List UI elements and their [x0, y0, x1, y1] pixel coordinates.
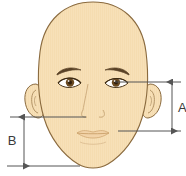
head-outline — [38, 2, 147, 168]
face-diagram-svg: A B — [0, 0, 186, 176]
face-proportion-diagram: A B — [0, 0, 186, 176]
left-eye — [58, 78, 81, 87]
measurement-b-label: B — [8, 133, 17, 148]
measurement-a-label: A — [178, 100, 186, 115]
